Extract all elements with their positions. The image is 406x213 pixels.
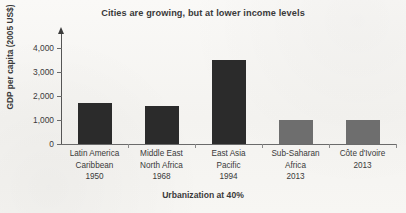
x-tick-mark: [396, 144, 397, 148]
category-label-line: East Asia: [195, 148, 262, 160]
bar: [346, 120, 380, 144]
category-label-line: 1950: [61, 171, 128, 183]
category-label: Sub-SaharanAfrica2013: [262, 148, 329, 183]
category-label-line: Africa: [262, 160, 329, 172]
y-tick-label: 1,000: [14, 116, 54, 124]
category-label: Latin AmericaCaribbean1950: [61, 148, 128, 183]
category-label-line: Latin America: [61, 148, 128, 160]
bar: [78, 103, 112, 144]
y-tick-label: 0: [14, 140, 54, 148]
category-label-line: Côte d'Ivoire: [329, 148, 396, 160]
category-label-line: Middle East: [128, 148, 195, 160]
y-tick-label: 3,000: [14, 68, 54, 76]
chart-figure: Cities are growing, but at lower income …: [0, 0, 406, 213]
x-axis-title: Urbanization at 40%: [0, 190, 406, 200]
category-label-line: Caribbean: [61, 160, 128, 172]
category-label-line: North Africa: [128, 160, 195, 172]
y-axis-title: GDP per capita (2005 US$): [5, 0, 15, 122]
category-label-line: 2013: [262, 171, 329, 183]
bar: [145, 106, 179, 144]
chart-title: Cities are growing, but at lower income …: [0, 8, 406, 18]
category-label: Côte d'Ivoire2013: [329, 148, 396, 171]
y-tick-label: 4,000: [14, 44, 54, 52]
category-label: East AsiaPacific1994: [195, 148, 262, 183]
category-label-line: Sub-Saharan: [262, 148, 329, 160]
category-label: Middle EastNorth Africa1968: [128, 148, 195, 183]
bars-layer: [61, 30, 396, 144]
x-axis-line: [61, 144, 396, 145]
bar: [212, 60, 246, 144]
category-label-line: 1968: [128, 171, 195, 183]
category-label-line: 2013: [329, 160, 396, 172]
y-tick-label: 2,000: [14, 92, 54, 100]
category-label-line: 1994: [195, 171, 262, 183]
category-label-line: Pacific: [195, 160, 262, 172]
bar: [279, 120, 313, 144]
y-tick-mark: [57, 144, 62, 145]
